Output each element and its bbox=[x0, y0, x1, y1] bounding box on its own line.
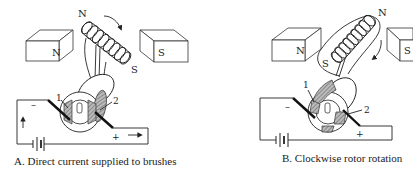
magnet-n-left: N bbox=[26, 30, 73, 61]
positive-terminal: + bbox=[356, 129, 364, 139]
magnet-label-s: S bbox=[404, 45, 411, 56]
rotor-arm bbox=[85, 38, 92, 82]
magnet-label-s: S bbox=[158, 47, 165, 58]
magnet-label-n: N bbox=[52, 47, 61, 58]
wire bbox=[44, 128, 148, 144]
brush-label-2: 2 bbox=[364, 105, 370, 115]
panel-b: N S N bbox=[260, 7, 413, 164]
negative-terminal: – bbox=[285, 101, 290, 112]
rotor-coil bbox=[329, 12, 378, 64]
caption-a: A. Direct current supplied to brushes bbox=[14, 155, 177, 167]
rotor-pole-s: S bbox=[131, 64, 138, 75]
brush-label-1: 1 bbox=[56, 93, 62, 103]
panel-a: N S N S bbox=[14, 8, 188, 167]
magnet-s-right: S bbox=[387, 28, 413, 61]
caption-b: B. Clockwise rotor rotation bbox=[282, 152, 403, 164]
battery-icon bbox=[33, 137, 44, 151]
clockwise-arrow bbox=[373, 40, 381, 59]
commutator bbox=[60, 68, 120, 132]
brush-label-1: 1 bbox=[303, 80, 309, 90]
rotor-pole-s: S bbox=[322, 58, 329, 69]
magnet-s-right: S bbox=[140, 30, 188, 62]
dc-motor-diagram: N S N S bbox=[0, 0, 413, 176]
rotor-coil bbox=[79, 19, 133, 66]
magnet-label-n: N bbox=[296, 45, 305, 56]
magnet-n-left: N bbox=[272, 28, 321, 61]
rotor-pole-n: N bbox=[78, 8, 87, 19]
clockwise-arrow bbox=[104, 16, 121, 29]
positive-terminal: + bbox=[112, 132, 120, 142]
brush-label-2: 2 bbox=[113, 96, 119, 106]
rotor-pole-n: N bbox=[378, 7, 387, 18]
negative-terminal: – bbox=[31, 99, 36, 110]
commutator bbox=[308, 72, 363, 132]
battery-icon bbox=[276, 133, 288, 147]
